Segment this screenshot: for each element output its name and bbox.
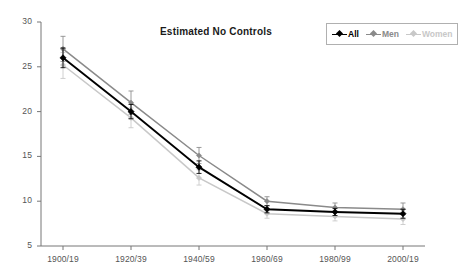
legend-marker-icon [366, 30, 381, 39]
x-axis-tick-label: 1980/99 [303, 254, 367, 264]
chart-title: Estimated No Controls [160, 26, 272, 37]
series-all [60, 48, 406, 218]
x-axis-tick-label: 1940/59 [167, 254, 231, 264]
legend-item-label: Men [382, 29, 399, 39]
y-axis-tick-label: 20 [8, 106, 32, 116]
y-axis-ticks [37, 22, 41, 246]
legend-item-women[interactable]: Women [406, 29, 453, 39]
legend-item-label: All [348, 29, 359, 39]
legend-marker-icon [332, 30, 347, 39]
legend-item-all[interactable]: All [332, 29, 359, 39]
series-layer [60, 36, 406, 224]
legend-marker-icon [406, 30, 421, 39]
y-axis-tick-label: 5 [8, 240, 32, 250]
chart-legend: AllMenWomen [326, 23, 458, 45]
y-axis-tick-label: 25 [8, 61, 32, 71]
axis-lines [37, 22, 425, 250]
x-axis-ticks [63, 246, 403, 250]
chart-container: 51015202530 1900/191920/391940/591960/69… [0, 0, 461, 278]
series-women [60, 52, 405, 224]
legend-item-label: Women [422, 29, 453, 39]
x-axis-tick-label: 2000/19 [371, 254, 435, 264]
x-axis-tick-label: 1920/39 [99, 254, 163, 264]
legend-item-men[interactable]: Men [366, 29, 399, 39]
y-axis-tick-label: 10 [8, 195, 32, 205]
x-axis-tick-label: 1960/69 [235, 254, 299, 264]
y-axis-tick-label: 15 [8, 150, 32, 160]
y-axis-tick-label: 30 [8, 16, 32, 26]
x-axis-tick-label: 1900/19 [31, 254, 95, 264]
